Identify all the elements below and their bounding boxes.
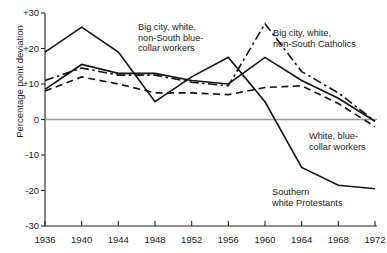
- y-tick-label: -10: [3, 149, 39, 160]
- annot-southern-protestants: Southern white Protestants: [272, 187, 342, 208]
- annot-bigcity-catholics: Big city, white, non-South Catholics: [273, 28, 356, 49]
- y-tick-label: 0: [3, 114, 39, 125]
- x-tick-label: 1944: [98, 234, 138, 245]
- x-tick-label: 1948: [135, 234, 175, 245]
- x-tick-label: 1968: [318, 234, 358, 245]
- y-tick-label: +10: [3, 78, 39, 89]
- y-tick-label: -30: [3, 220, 39, 231]
- annot-white-bluecollar: White, blue- collar workers: [309, 131, 366, 152]
- chart-figure: Percentage point deviation +30+20+100-10…: [0, 0, 387, 253]
- x-tick-label: 1952: [172, 234, 212, 245]
- x-tick-label: 1964: [282, 234, 322, 245]
- series-line-0: [45, 27, 375, 189]
- y-tick-label: +30: [3, 7, 39, 18]
- x-tick-label: 1956: [208, 234, 248, 245]
- y-tick-label: +20: [3, 43, 39, 54]
- y-tick-label: -20: [3, 185, 39, 196]
- x-tick-label: 1972: [355, 234, 387, 245]
- x-tick-label: 1940: [62, 234, 102, 245]
- annot-bigcity-bluecollar: Big city, white, non-South blue- collar …: [138, 22, 203, 54]
- x-tick-label: 1960: [245, 234, 285, 245]
- x-tick-label: 1936: [25, 234, 65, 245]
